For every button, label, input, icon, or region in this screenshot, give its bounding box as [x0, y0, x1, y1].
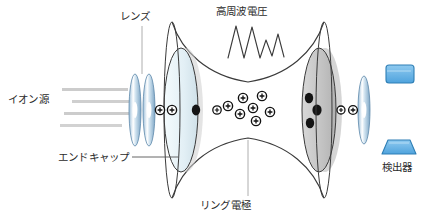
endcap-electrode-right: [302, 48, 342, 172]
rf-waveform-icon: [228, 26, 284, 58]
label-rf-voltage: 高周波電圧: [216, 6, 267, 17]
ion-trap-diagram: レンズ 高周波電圧 イオン源 エンドキャップ リング電極 検出器: [0, 0, 424, 219]
lens-element-right: [358, 76, 370, 144]
label-end-cap: エンドキャップ: [58, 152, 129, 163]
neutral-particle-left: [192, 105, 200, 116]
lens-element-left-inner: [143, 74, 155, 146]
exit-ions: [337, 106, 357, 115]
detector-plate-icon: [386, 65, 414, 83]
ion-beam-lines: [60, 88, 132, 127]
label-detector: 検出器: [382, 162, 413, 173]
label-lens: レンズ: [120, 11, 151, 22]
lens-element-left-outer: [129, 74, 141, 146]
label-ring-electrode: リング電極: [200, 200, 251, 211]
trapped-ions: [213, 91, 275, 125]
detector-cone-icon: [382, 140, 416, 154]
label-ion-source: イオン源: [8, 94, 49, 105]
diagram-canvas: [0, 0, 424, 219]
